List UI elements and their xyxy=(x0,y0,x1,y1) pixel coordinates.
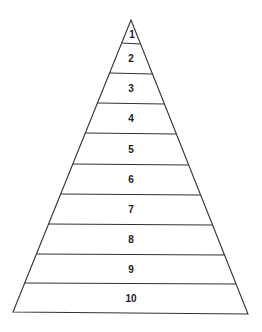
level-label-8: 8 xyxy=(128,234,134,245)
level-divider xyxy=(36,254,224,255)
level-divider xyxy=(122,43,141,44)
level-label-10: 10 xyxy=(125,293,137,304)
level-label-3: 3 xyxy=(128,83,134,94)
level-divider xyxy=(97,103,164,104)
pyramid-diagram: 12345678910 xyxy=(0,0,262,332)
level-divider xyxy=(49,224,213,225)
level-label-5: 5 xyxy=(128,144,134,155)
level-label-9: 9 xyxy=(128,264,134,275)
level-divider xyxy=(85,133,176,134)
level-label-2: 2 xyxy=(128,53,134,64)
level-label-7: 7 xyxy=(128,204,134,215)
level-divider xyxy=(110,73,153,74)
level-divider xyxy=(61,194,201,195)
level-divider xyxy=(73,164,189,165)
level-label-6: 6 xyxy=(128,174,134,185)
level-label-4: 4 xyxy=(128,113,134,124)
level-label-1: 1 xyxy=(129,29,135,40)
level-divider xyxy=(25,283,236,284)
